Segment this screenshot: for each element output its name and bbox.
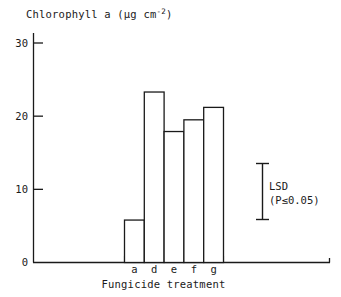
lsd-pvalue-label: (P≤0.05): [269, 193, 320, 207]
bars: [125, 92, 224, 262]
y-tick-label-0: 0: [0, 257, 28, 268]
y-tick-label-20: 20: [0, 111, 28, 122]
x-tick-label-g: g: [202, 264, 226, 275]
bar-a: [125, 220, 145, 262]
bar-d: [144, 92, 164, 262]
bar-g: [204, 107, 224, 262]
lsd-label: LSD: [269, 179, 288, 193]
bar-e: [164, 132, 184, 263]
lsd-error-bar: [256, 163, 269, 220]
bar-f: [184, 120, 204, 263]
y-tick-label-30: 30: [0, 38, 28, 49]
y-tick-label-10: 10: [0, 184, 28, 195]
y-axis-ticks: [34, 43, 44, 263]
plot-area: [0, 0, 341, 297]
x-axis-title-text: Fungicide treatment: [102, 278, 226, 290]
x-axis-title: Fungicide treatment: [0, 279, 341, 290]
chart-figure: Chlorophyll a (µg cm-2) LSD (P≤0.05) 010…: [0, 0, 341, 297]
